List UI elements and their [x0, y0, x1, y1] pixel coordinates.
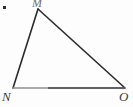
vertex-label-m: M: [32, 0, 42, 9]
vertex-label-o: O: [119, 90, 128, 103]
triangle-drawing: [0, 0, 133, 107]
edge-m-to-n: [13, 9, 38, 88]
corner-dot-mark: [3, 6, 6, 9]
vertex-label-n: N: [2, 90, 11, 103]
edge-m-to-o: [38, 9, 125, 88]
triangle-figure: M N O: [0, 0, 133, 107]
